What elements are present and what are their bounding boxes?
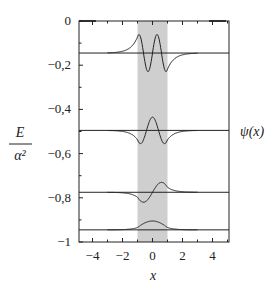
x-tick-label: 4 [209,248,216,263]
y-axis-label-numerator: E [15,125,25,140]
y-tick-label: −0,6 [47,146,71,161]
chart: 0−0,2−0,4−0,6−0,8−1 −4−2024 E α² x ψ(x) [0,0,280,287]
x-tick-label: 0 [149,248,156,263]
psi-label: ψ(x) [240,124,265,140]
x-axis-label: x [149,268,157,283]
y-tick-label: −0,4 [47,101,71,116]
x-tick-label: −4 [86,248,100,263]
y-tick-label: −0,2 [47,57,71,72]
y-tick-label: −1 [57,234,71,249]
y-tick-label: 0 [65,13,72,28]
y-axis-ticks: 0−0,2−0,4−0,6−0,8−1 [47,13,83,249]
y-tick-label: −0,8 [47,190,71,205]
y-axis-label-denominator: α² [14,148,26,163]
x-tick-label: 2 [179,248,186,263]
x-tick-label: −2 [116,248,130,263]
